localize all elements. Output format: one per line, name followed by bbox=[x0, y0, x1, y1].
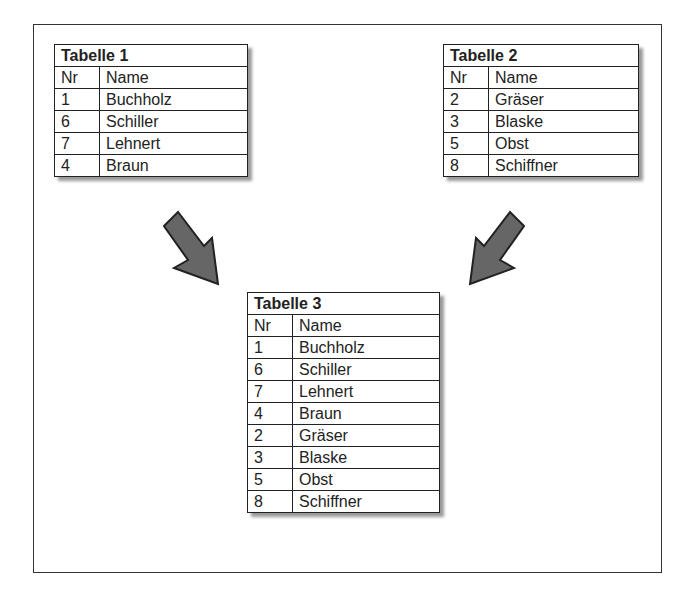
header-name: Name bbox=[489, 67, 639, 89]
table-row: 7Lehnert bbox=[248, 381, 440, 403]
cell-name: Buchholz bbox=[293, 337, 440, 359]
table-row: 8Schiffner bbox=[248, 491, 440, 513]
table-row: 5Obst bbox=[248, 469, 440, 491]
cell-name: Obst bbox=[293, 469, 440, 491]
table-row: 7Lehnert bbox=[55, 133, 248, 155]
cell-nr: 6 bbox=[55, 111, 100, 133]
header-name: Name bbox=[293, 315, 440, 337]
table-row: 4Braun bbox=[55, 155, 248, 177]
cell-nr: 2 bbox=[444, 89, 489, 111]
cell-nr: 2 bbox=[248, 425, 293, 447]
arrow-down-right-icon bbox=[160, 208, 230, 288]
table-3: Tabelle 3 NrName 1Buchholz 6Schiller 7Le… bbox=[247, 292, 440, 513]
cell-nr: 1 bbox=[55, 89, 100, 111]
table-row: 4Braun bbox=[248, 403, 440, 425]
table-row: 3Blaske bbox=[248, 447, 440, 469]
cell-name: Schiffner bbox=[489, 155, 639, 177]
cell-nr: 1 bbox=[248, 337, 293, 359]
table-2: Tabelle 2 NrName 2Gräser 3Blaske 5Obst 8… bbox=[443, 44, 639, 177]
cell-name: Blaske bbox=[489, 111, 639, 133]
table-row: 6Schiller bbox=[248, 359, 440, 381]
table-row: 2Gräser bbox=[248, 425, 440, 447]
header-name: Name bbox=[100, 67, 248, 89]
table-row: 5Obst bbox=[444, 133, 639, 155]
arrow-down-left-icon bbox=[458, 208, 528, 288]
table-title: Tabelle 1 bbox=[55, 45, 248, 67]
table-title: Tabelle 2 bbox=[444, 45, 639, 67]
cell-name: Lehnert bbox=[293, 381, 440, 403]
table-title: Tabelle 3 bbox=[248, 293, 440, 315]
cell-nr: 6 bbox=[248, 359, 293, 381]
cell-name: Buchholz bbox=[100, 89, 248, 111]
cell-nr: 7 bbox=[248, 381, 293, 403]
cell-name: Gräser bbox=[293, 425, 440, 447]
cell-nr: 7 bbox=[55, 133, 100, 155]
cell-name: Braun bbox=[293, 403, 440, 425]
table-row: 1Buchholz bbox=[248, 337, 440, 359]
header-nr: Nr bbox=[248, 315, 293, 337]
cell-name: Obst bbox=[489, 133, 639, 155]
cell-name: Gräser bbox=[489, 89, 639, 111]
cell-nr: 5 bbox=[444, 133, 489, 155]
cell-name: Schiffner bbox=[293, 491, 440, 513]
table-row: 3Blaske bbox=[444, 111, 639, 133]
header-nr: Nr bbox=[55, 67, 100, 89]
cell-nr: 8 bbox=[444, 155, 489, 177]
cell-name: Blaske bbox=[293, 447, 440, 469]
cell-nr: 3 bbox=[444, 111, 489, 133]
cell-nr: 5 bbox=[248, 469, 293, 491]
cell-name: Lehnert bbox=[100, 133, 248, 155]
table-1: Tabelle 1 NrName 1Buchholz 6Schiller 7Le… bbox=[54, 44, 248, 177]
cell-nr: 3 bbox=[248, 447, 293, 469]
table-row: 8Schiffner bbox=[444, 155, 639, 177]
table-row: 1Buchholz bbox=[55, 89, 248, 111]
table-row: 2Gräser bbox=[444, 89, 639, 111]
cell-nr: 4 bbox=[55, 155, 100, 177]
cell-name: Schiller bbox=[100, 111, 248, 133]
table-row: 6Schiller bbox=[55, 111, 248, 133]
header-nr: Nr bbox=[444, 67, 489, 89]
cell-nr: 8 bbox=[248, 491, 293, 513]
cell-nr: 4 bbox=[248, 403, 293, 425]
cell-name: Braun bbox=[100, 155, 248, 177]
cell-name: Schiller bbox=[293, 359, 440, 381]
